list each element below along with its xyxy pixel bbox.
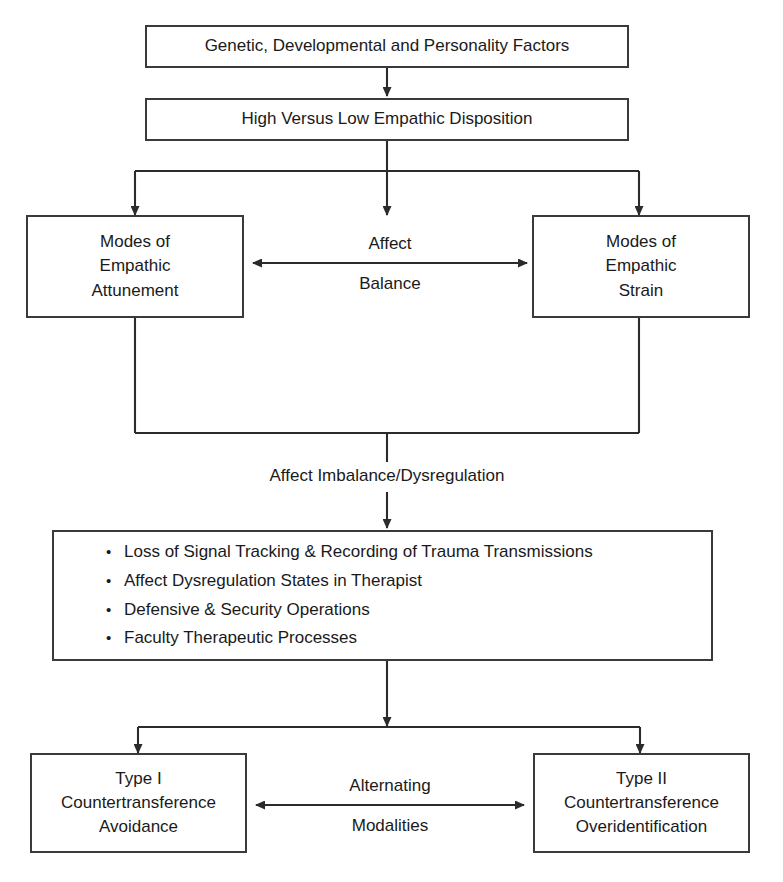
edge-label-affect-balance-above: Affect: [290, 232, 490, 255]
node-modes-of-empathic-strain[interactable]: Modes of Empathic Strain: [532, 215, 750, 318]
node-empathic-disposition[interactable]: High Versus Low Empathic Disposition: [145, 98, 629, 141]
node-empathic-disposition-line-1: High Versus Low Empathic Disposition: [241, 107, 532, 131]
edge-label-affect-balance-above-text: Affect: [368, 234, 411, 253]
node-attunement-line-2: Empathic: [100, 254, 171, 278]
edge-label-alternating-modalities-below-text: Modalities: [352, 816, 429, 835]
list-item-label: Affect Dysregulation States in Therapist: [124, 570, 422, 593]
node-type-one-line-3: Avoidance: [99, 815, 178, 839]
node-type-one-line-2: Countertransference: [61, 791, 216, 815]
node-strain-line-1: Modes of: [606, 230, 676, 254]
node-strain-line-3: Strain: [619, 279, 663, 303]
node-modes-of-empathic-attunement[interactable]: Modes of Empathic Attunement: [26, 215, 244, 318]
node-consequences-list[interactable]: • Loss of Signal Tracking & Recording of…: [52, 530, 713, 661]
node-type-one-countertransference-avoidance[interactable]: Type I Countertransference Avoidance: [30, 753, 247, 853]
edge-label-affect-balance-below-text: Balance: [359, 274, 420, 293]
list-item: • Defensive & Security Operations: [106, 599, 711, 622]
edge-label-affect-imbalance-text: Affect Imbalance/Dysregulation: [270, 466, 505, 485]
edge-label-alternating-modalities-below: Modalities: [290, 814, 490, 837]
bullet-icon: •: [106, 544, 124, 559]
edge-label-alternating-modalities-above: Alternating: [290, 774, 490, 797]
edge-label-affect-imbalance: Affect Imbalance/Dysregulation: [187, 464, 587, 487]
list-item-label: Defensive & Security Operations: [124, 599, 370, 622]
list-item: • Affect Dysregulation States in Therapi…: [106, 570, 711, 593]
list-item: • Faculty Therapeutic Processes: [106, 627, 711, 650]
node-type-two-line-3: Overidentification: [576, 815, 707, 839]
node-attunement-line-3: Attunement: [92, 279, 179, 303]
list-item-label: Loss of Signal Tracking & Recording of T…: [124, 541, 593, 564]
node-attunement-line-1: Modes of: [100, 230, 170, 254]
flowchart-canvas: Genetic, Developmental and Personality F…: [0, 0, 783, 882]
bullet-icon: •: [106, 602, 124, 617]
list-item-label: Faculty Therapeutic Processes: [124, 627, 357, 650]
edge-label-affect-balance-below: Balance: [290, 272, 490, 295]
bullet-icon: •: [106, 630, 124, 645]
node-type-two-line-2: Countertransference: [564, 791, 719, 815]
node-type-two-line-1: Type II: [616, 767, 667, 791]
bullet-icon: •: [106, 573, 124, 588]
node-genetic-factors-line-1: Genetic, Developmental and Personality F…: [205, 34, 570, 58]
list-item: • Loss of Signal Tracking & Recording of…: [106, 541, 711, 564]
edge-label-alternating-modalities-above-text: Alternating: [349, 776, 430, 795]
node-type-one-line-1: Type I: [115, 767, 161, 791]
node-strain-line-2: Empathic: [606, 254, 677, 278]
node-genetic-factors[interactable]: Genetic, Developmental and Personality F…: [145, 25, 629, 68]
node-type-two-countertransference-overidentification[interactable]: Type II Countertransference Overidentifi…: [533, 753, 750, 853]
